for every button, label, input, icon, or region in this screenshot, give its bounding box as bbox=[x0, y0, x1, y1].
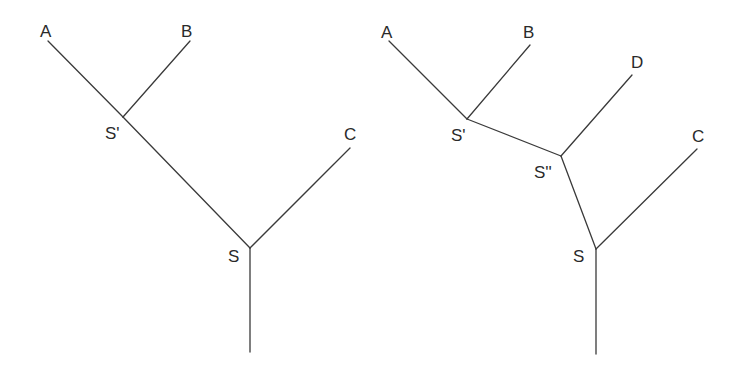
edge-Sp-Spp bbox=[467, 119, 561, 156]
edge-Spp-S bbox=[561, 156, 596, 249]
edge-D-Spp bbox=[561, 75, 632, 156]
edge-A-Sp bbox=[48, 41, 123, 117]
edge-Sp-S bbox=[123, 117, 250, 248]
edge-C-S bbox=[596, 149, 697, 249]
node-label-Spp: S'' bbox=[534, 163, 552, 182]
node-label-A: A bbox=[40, 22, 52, 41]
edge-C-S bbox=[250, 148, 350, 248]
node-label-C: C bbox=[692, 127, 704, 146]
left-tree: ABS'CS bbox=[40, 22, 356, 352]
edge-B-Sp bbox=[467, 45, 530, 119]
node-label-A: A bbox=[381, 23, 393, 42]
edge-B-Sp bbox=[123, 41, 190, 117]
node-label-C: C bbox=[344, 125, 356, 144]
node-label-D: D bbox=[631, 53, 643, 72]
node-label-Sp: S' bbox=[451, 126, 466, 145]
node-label-Sp: S' bbox=[105, 124, 120, 143]
node-label-S: S bbox=[573, 247, 584, 266]
node-label-B: B bbox=[181, 22, 192, 41]
tree-diagrams: ABS'CS ABDS'S''CS bbox=[0, 0, 740, 365]
right-tree: ABDS'S''CS bbox=[381, 23, 704, 354]
node-label-B: B bbox=[523, 23, 534, 42]
node-label-S: S bbox=[228, 247, 239, 266]
edge-A-Sp bbox=[389, 41, 467, 119]
